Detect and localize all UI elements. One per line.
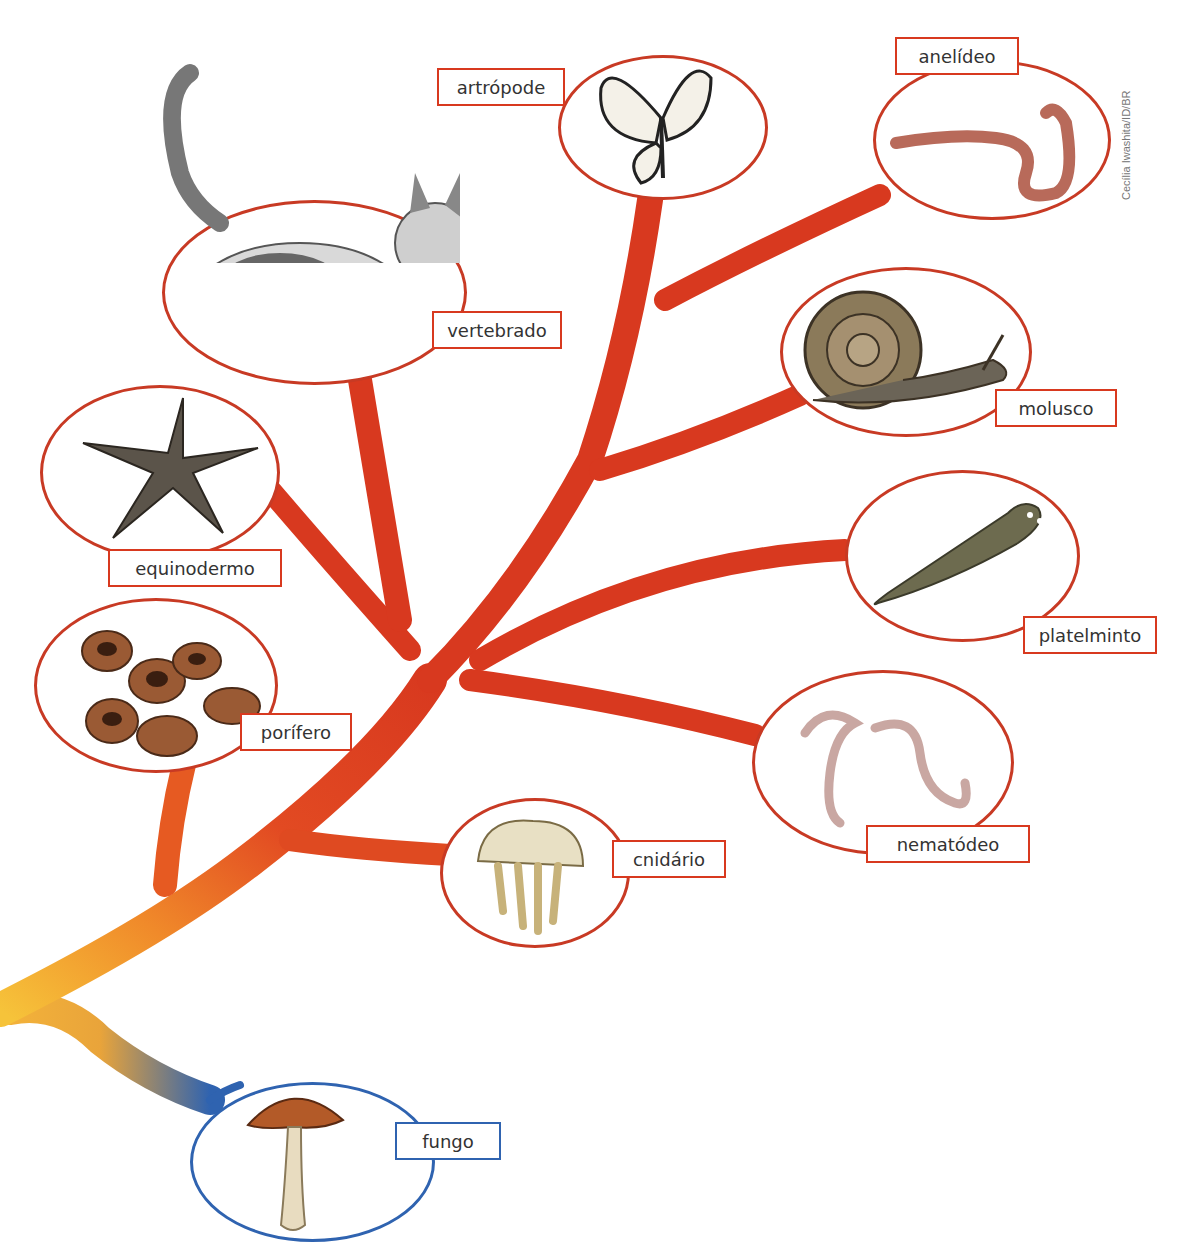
label-molusco: molusco: [995, 389, 1117, 427]
mushroom-icon: [193, 1085, 433, 1240]
label-platelminto: platelminto: [1023, 616, 1157, 654]
label-porifero: porífero: [240, 713, 352, 751]
butterfly-icon: [591, 48, 731, 188]
node-artropode: [558, 55, 768, 200]
node-equinodermo: [40, 385, 280, 560]
label-nematodeo: nematódeo: [866, 825, 1030, 863]
earthworm-icon: [876, 63, 1106, 213]
node-cnidario: [440, 798, 630, 948]
label-anelideo: anelídeo: [895, 37, 1019, 75]
flatworm-icon: [848, 473, 1073, 633]
label-equinodermo: equinodermo: [108, 549, 282, 587]
snail-icon: [783, 270, 1023, 430]
label-vertebrado: vertebrado: [432, 311, 562, 349]
starfish-icon: [43, 388, 273, 553]
jellyfish-icon: [443, 801, 628, 946]
cat-icon: [160, 33, 460, 263]
image-credit: Cecília Iwashita/ID/BR: [1120, 91, 1132, 200]
label-fungo: fungo: [395, 1122, 501, 1160]
node-anelideo: [873, 60, 1111, 220]
node-fungo: [190, 1082, 435, 1242]
label-artropode: artrópode: [437, 68, 565, 106]
label-cnidario: cnidário: [612, 840, 726, 878]
node-vertebrado: [162, 200, 467, 385]
